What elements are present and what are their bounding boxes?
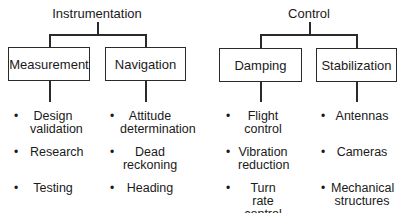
- bullet-icon: •: [226, 182, 230, 195]
- connector-line: [49, 34, 146, 36]
- list-item: • Cameras: [319, 146, 393, 159]
- bullet-icon: •: [321, 110, 325, 123]
- node-label: Stabilization: [321, 58, 391, 73]
- list-item: • Design validation: [12, 110, 76, 136]
- bullet-icon: •: [110, 146, 114, 159]
- connector-line: [260, 82, 262, 102]
- list-item: • Testing: [12, 182, 76, 195]
- connector-line: [260, 34, 262, 48]
- group-title-instrumentation: Instrumentation: [27, 6, 167, 21]
- node-label: Damping: [234, 58, 286, 73]
- connector-line: [356, 82, 358, 102]
- bullet-icon: •: [14, 182, 18, 195]
- list-item: • Mechanical structures: [319, 182, 393, 208]
- list-item: • Vibration reduction: [224, 146, 288, 172]
- node-stabilization: Stabilization: [316, 48, 397, 82]
- node-measurement: Measurement: [8, 47, 90, 81]
- list-item: • Flight control: [224, 110, 288, 136]
- list-item: • Attitude determination: [108, 110, 180, 136]
- connector-line: [145, 34, 147, 47]
- connector-line: [97, 22, 99, 34]
- bullet-icon: •: [14, 146, 18, 159]
- connector-line: [260, 34, 357, 36]
- node-label: Navigation: [115, 57, 176, 72]
- connector-line: [309, 22, 311, 34]
- connector-line: [49, 81, 51, 102]
- list-item: • Research: [12, 146, 76, 159]
- bullet-icon: •: [226, 146, 230, 159]
- connector-line: [145, 81, 147, 102]
- bullet-icon: •: [14, 110, 18, 123]
- bullet-icon: •: [226, 110, 230, 123]
- node-navigation: Navigation: [105, 47, 186, 81]
- connector-line: [356, 34, 358, 48]
- node-damping: Damping: [219, 48, 302, 82]
- list-item: • Heading: [108, 182, 180, 195]
- bullet-icon: •: [321, 182, 325, 195]
- node-label: Measurement: [9, 57, 88, 72]
- bullet-icon: •: [110, 182, 114, 195]
- group-title-control: Control: [239, 6, 379, 21]
- list-item: • Dead reckoning: [108, 146, 180, 172]
- list-item: • Turn rate control: [224, 182, 288, 213]
- list-item: • Antennas: [319, 110, 393, 123]
- connector-line: [49, 34, 51, 47]
- bullet-icon: •: [110, 110, 114, 123]
- bullet-icon: •: [321, 146, 325, 159]
